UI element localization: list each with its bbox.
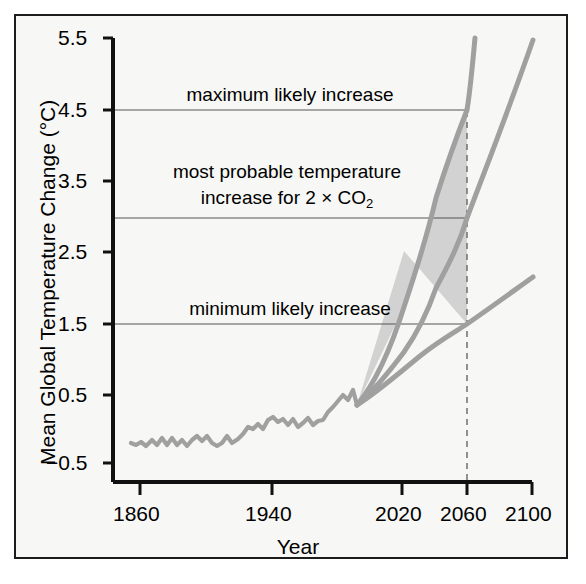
annotation-probable-line-2-text: increase for 2 × CO [201, 187, 366, 208]
x-axis-title: Year [277, 535, 319, 559]
x-tick-label-2100: 2100 [505, 502, 552, 526]
x-tick-label-2060: 2060 [440, 502, 487, 526]
y-tick-label-4.5: 4.5 [58, 98, 87, 122]
annotation-maximum-likely-increase: maximum likely increase [187, 84, 394, 106]
annotation-minimum-likely-increase: minimum likely increase [189, 298, 391, 320]
annotation-probable-co2-subscript: 2 [366, 196, 373, 211]
y-axis-title: Mean Global Temperature Change (°C) [36, 100, 60, 465]
y-tick-label-1.5: 1.5 [58, 312, 87, 336]
figure-container: 5.5 4.5 3.5 2.5 1.5 0.5 −0.5 1860 1940 2… [0, 0, 586, 584]
annotation-most-probable-increase: most probable temperature increase for 2… [173, 159, 401, 213]
y-tick-label-2.5: 2.5 [58, 240, 87, 264]
annotation-probable-line-2: increase for 2 × CO2 [173, 185, 401, 213]
y-tick-label-5.5: 5.5 [58, 26, 87, 50]
annotation-probable-line-1: most probable temperature [173, 159, 401, 185]
x-tick-label-1860: 1860 [113, 502, 160, 526]
x-tick-label-1940: 1940 [245, 502, 292, 526]
series-observed [131, 390, 357, 446]
y-tick-label-0.5: 0.5 [58, 383, 87, 407]
x-tick-label-2020: 2020 [375, 502, 422, 526]
y-tick-label-3.5: 3.5 [58, 169, 87, 193]
